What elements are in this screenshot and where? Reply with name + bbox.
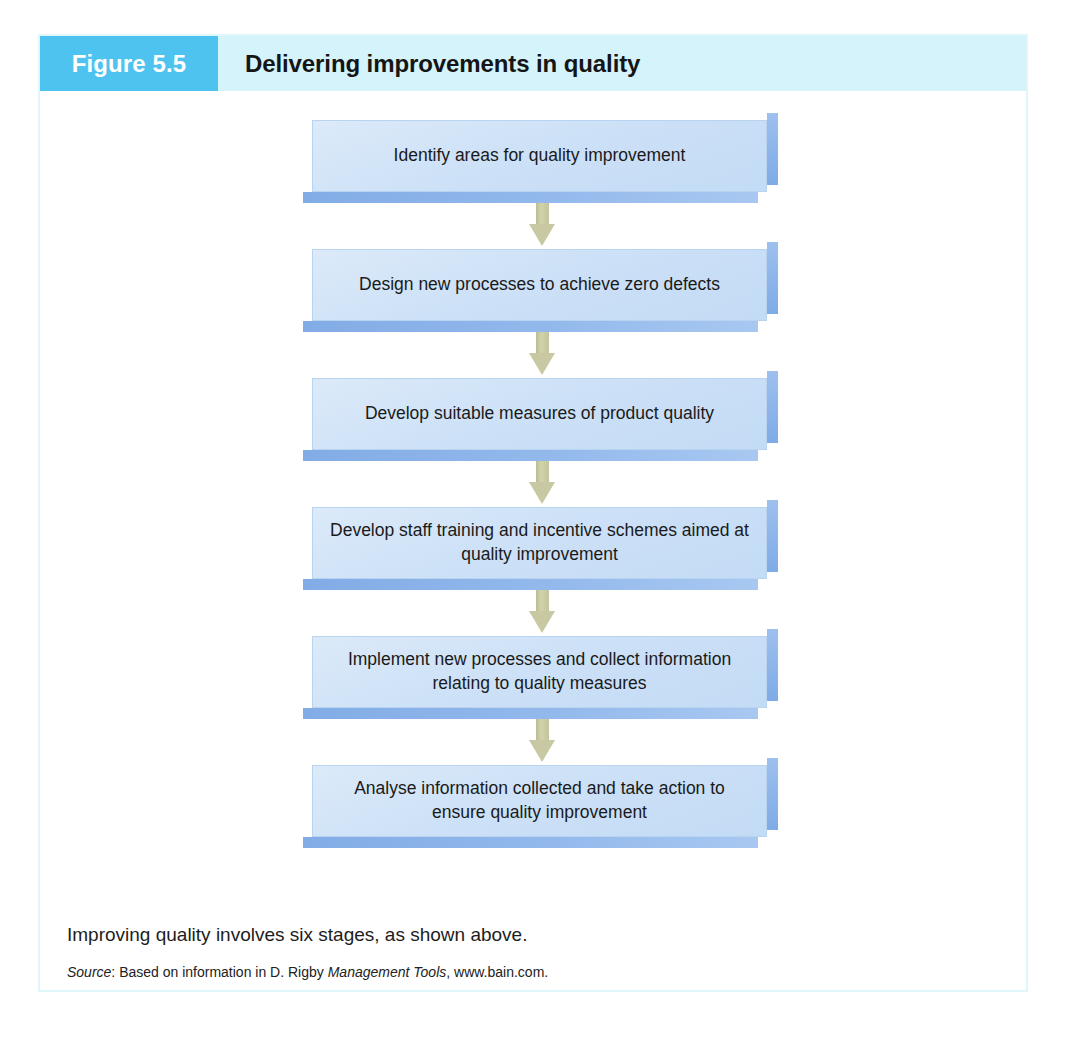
down-arrow-icon — [529, 454, 555, 504]
flow-step-6: Analyse information collected and take a… — [312, 765, 767, 837]
flow-step-1: Identify areas for quality improvement — [312, 120, 767, 192]
source-label: Source — [67, 964, 111, 980]
down-arrow-icon — [529, 196, 555, 246]
node-bottom-extrusion — [303, 579, 758, 590]
flow-step-4-label: Develop staff training and incentive sch… — [312, 507, 767, 579]
node-bottom-extrusion — [303, 708, 758, 719]
node-side-extrusion — [767, 371, 778, 443]
arrow-head — [529, 611, 555, 633]
flowchart-area: Identify areas for quality improvement D… — [40, 91, 1026, 837]
flow-step-5-label: Implement new processes and collect info… — [312, 636, 767, 708]
down-arrow-icon — [529, 712, 555, 762]
flow-step-6-label: Analyse information collected and take a… — [312, 765, 767, 837]
arrow-head — [529, 224, 555, 246]
source-separator: : — [111, 964, 119, 980]
arrow-head — [529, 740, 555, 762]
figure-number-badge: Figure 5.5 — [40, 36, 218, 91]
figure-source: Source: Based on information in D. Rigby… — [67, 964, 548, 980]
node-side-extrusion — [767, 500, 778, 572]
source-work-title: Management Tools — [328, 964, 447, 980]
down-arrow-icon — [529, 583, 555, 633]
flowchart-stack: Identify areas for quality improvement D… — [304, 120, 774, 837]
arrow-head — [529, 353, 555, 375]
figure-header: Figure 5.5 Delivering improvements in qu… — [40, 36, 1026, 91]
flow-step-5: Implement new processes and collect info… — [312, 636, 767, 708]
node-bottom-extrusion — [303, 837, 758, 848]
node-side-extrusion — [767, 758, 778, 830]
down-arrow-icon — [529, 325, 555, 375]
arrow-head — [529, 482, 555, 504]
node-bottom-extrusion — [303, 192, 758, 203]
node-side-extrusion — [767, 113, 778, 185]
node-bottom-extrusion — [303, 450, 758, 461]
figure-caption: Improving quality involves six stages, a… — [67, 924, 527, 946]
node-side-extrusion — [767, 629, 778, 701]
source-text-before: Based on information in D. Rigby — [119, 964, 328, 980]
flow-step-3-label: Develop suitable measures of product qua… — [312, 378, 767, 450]
figure-title: Delivering improvements in quality — [218, 36, 1026, 91]
flow-step-1-label: Identify areas for quality improvement — [312, 120, 767, 192]
flow-step-2-label: Design new processes to achieve zero def… — [312, 249, 767, 321]
flow-step-3: Develop suitable measures of product qua… — [312, 378, 767, 450]
node-side-extrusion — [767, 242, 778, 314]
flow-step-4: Develop staff training and incentive sch… — [312, 507, 767, 579]
source-text-after: , www.bain.com. — [446, 964, 548, 980]
figure-panel: Figure 5.5 Delivering improvements in qu… — [38, 34, 1028, 992]
flow-step-2: Design new processes to achieve zero def… — [312, 249, 767, 321]
node-bottom-extrusion — [303, 321, 758, 332]
